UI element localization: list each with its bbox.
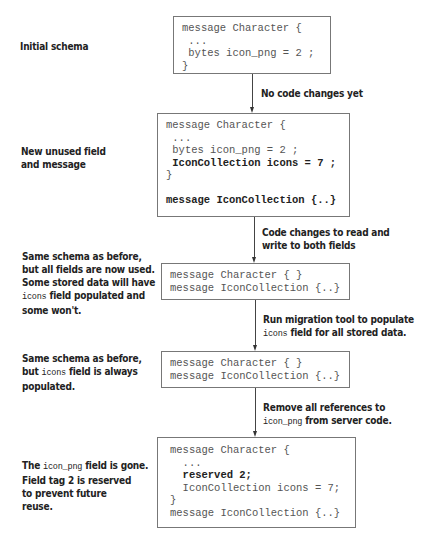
code-line: [166, 182, 341, 195]
arrow-down-icon: [253, 345, 257, 351]
label-line: Field tag 2 is reserved: [22, 474, 148, 487]
label-line: Same schema as before,: [22, 352, 142, 365]
caption-line: No code changes yet: [261, 87, 363, 100]
text-run: The: [22, 460, 43, 471]
caption-line: icons field for all stored data.: [263, 326, 414, 341]
caption-line: Run migration tool to populate: [263, 313, 414, 326]
label-line: New unused field: [21, 145, 106, 158]
transition-4-caption: Remove all references toicon_png from se…: [263, 401, 392, 429]
stage-3-label: Same schema as before,but all fields are…: [22, 250, 155, 317]
text-run: to prevent future: [22, 488, 107, 499]
inline-code: icon_png: [263, 417, 302, 427]
text-run: reuse.: [22, 501, 53, 512]
code-line: ...: [182, 35, 322, 48]
code-line: }: [182, 60, 322, 73]
text-run: Initial schema: [20, 41, 88, 52]
schema-box-migrated: message Character { }message IconCollect…: [161, 351, 350, 388]
code-line: message IconCollection {..}: [170, 370, 341, 383]
schema-box-reserved: message Character { ... reserved 2; Icon…: [157, 437, 356, 528]
label-line: Same schema as before,: [22, 250, 155, 263]
code-line: message Character {: [170, 444, 343, 457]
arrow-down-icon: [250, 107, 254, 113]
text-run: but all fields are now used.: [22, 264, 155, 275]
arrow-line-2: [254, 217, 255, 257]
caption-line: Code changes to read and: [262, 226, 390, 239]
text-run: from server code.: [302, 415, 391, 426]
inline-code: icon_png: [43, 462, 82, 472]
text-run: field is gone.: [82, 460, 148, 471]
text-run: No code changes yet: [261, 88, 363, 99]
stage-2-label: New unused fieldand message: [21, 145, 106, 171]
code-line: message IconCollection {..}: [170, 507, 343, 520]
arrow-line-1: [252, 74, 253, 108]
text-run: Remove all references to: [263, 402, 385, 413]
schema-box-initial: message Character { ... bytes icon_png =…: [173, 16, 331, 74]
code-line: }: [166, 169, 341, 182]
arrow-down-icon: [252, 257, 256, 263]
text-run: Run migration tool to populate: [263, 314, 414, 325]
code-line: message Character { }: [170, 357, 341, 370]
arrow-line-3: [255, 300, 256, 345]
transition-3-caption: Run migration tool to populateicons fiel…: [263, 313, 414, 341]
code-line: message IconCollection {..}: [170, 282, 341, 295]
code-line: bytes icon_png = 2 ;: [166, 144, 341, 157]
label-line: and message: [21, 158, 106, 171]
transition-1-caption: No code changes yet: [261, 87, 363, 100]
code-line: IconCollection icons = 7;: [170, 482, 343, 495]
caption-line: write to both fields: [262, 239, 390, 252]
label-line: populated.: [22, 380, 142, 393]
label-line: but all fields are now used.: [22, 263, 155, 276]
schema-box-new-field: message Character { ... bytes icon_png =…: [157, 113, 350, 217]
stage-1-label: Initial schema: [20, 40, 88, 53]
label-line: The icon_png field is gone.: [22, 459, 148, 474]
arrow-down-icon: [253, 431, 257, 437]
code-line: message IconCollection {..}: [166, 194, 341, 207]
inline-code: icons: [22, 292, 47, 302]
transition-2-caption: Code changes to read andwrite to both fi…: [262, 226, 390, 252]
text-run: but: [22, 366, 41, 377]
code-line: ...: [170, 457, 343, 470]
text-run: and message: [21, 159, 86, 170]
inline-code: icons: [263, 329, 288, 339]
stage-4-label: Same schema as before,but icons field is…: [22, 352, 142, 393]
label-line: Some stored data will have: [22, 276, 155, 289]
text-run: populated.: [22, 381, 75, 392]
text-run: Same schema as before,: [22, 353, 142, 364]
label-line: to prevent future: [22, 487, 148, 500]
code-line: message Character { }: [170, 269, 341, 282]
caption-line: Remove all references to: [263, 401, 392, 414]
label-line: but icons field is always: [22, 365, 142, 380]
code-line: bytes icon_png = 2 ;: [182, 47, 322, 60]
arrow-line-4: [255, 388, 256, 431]
caption-line: icon_png from server code.: [263, 414, 392, 429]
text-run: field populated and: [47, 290, 145, 301]
code-line: message Character {: [182, 22, 322, 35]
text-run: New unused field: [21, 146, 106, 157]
code-line: ...: [166, 132, 341, 145]
text-run: write to both fields: [262, 240, 355, 251]
text-run: field for all stored data.: [288, 327, 407, 338]
inline-code: icons: [41, 368, 66, 378]
code-line: message Character {: [166, 119, 341, 132]
text-run: Code changes to read and: [262, 227, 390, 238]
label-line: Initial schema: [20, 40, 88, 53]
text-run: some won't.: [22, 305, 81, 316]
code-line: reserved 2;: [170, 469, 343, 482]
stage-5-label: The icon_png field is gone.Field tag 2 i…: [22, 459, 148, 513]
label-line: icons field populated and: [22, 289, 155, 304]
code-line: }: [170, 494, 343, 507]
code-line: IconCollection icons = 7 ;: [166, 157, 341, 170]
schema-box-dual-write: message Character { }message IconCollect…: [161, 263, 350, 300]
text-run: Field tag 2 is reserved: [22, 475, 131, 486]
text-run: field is always: [66, 366, 138, 377]
text-run: Some stored data will have: [22, 277, 155, 288]
label-line: reuse.: [22, 500, 148, 513]
label-line: some won't.: [22, 304, 155, 317]
text-run: Same schema as before,: [22, 251, 142, 262]
